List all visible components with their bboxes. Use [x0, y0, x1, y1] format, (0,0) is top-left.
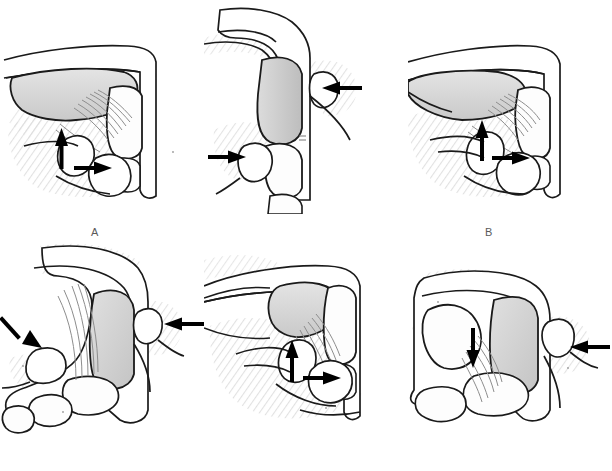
panel-b: B [204, 0, 408, 214]
panel-f: F [408, 240, 612, 440]
panel-a: A [0, 0, 204, 214]
speck-marks [325, 407, 327, 409]
panel-b-illustration [204, 0, 408, 214]
panel-f-illustration [408, 240, 612, 440]
panel-e: E [204, 240, 408, 440]
panel-label-b: B [474, 226, 504, 238]
figure-container: A [0, 0, 612, 471]
panel-e-illustration [204, 240, 408, 440]
panel-d: D [0, 240, 204, 440]
arrow-down-right [0, 316, 42, 348]
panel-label-a: A [80, 226, 110, 238]
panel-c-illustration [408, 0, 612, 214]
panel-c: C [408, 0, 612, 214]
panel-d-illustration [0, 240, 204, 440]
speck-marks [172, 151, 174, 153]
panel-a-illustration [0, 0, 204, 214]
bone-proximal-phalanx [257, 57, 302, 144]
